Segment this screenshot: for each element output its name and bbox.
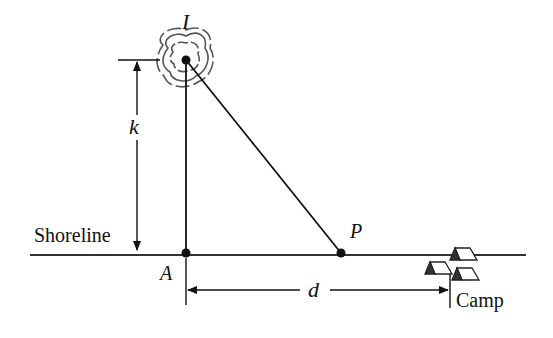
segment-ip — [186, 60, 341, 253]
label-k: k — [129, 114, 140, 139]
diagram-canvas: I k Shoreline A P d Camp — [0, 0, 553, 338]
point-p-dot — [337, 249, 346, 258]
label-d: d — [308, 277, 320, 302]
camp-tents-icon — [425, 248, 479, 280]
label-point-p: P — [349, 220, 362, 242]
label-point-a: A — [158, 262, 173, 284]
label-shoreline: Shoreline — [34, 224, 111, 246]
label-island-i: I — [181, 9, 191, 34]
label-camp: Camp — [456, 289, 504, 312]
point-i-dot — [182, 56, 191, 65]
point-a-dot — [182, 249, 191, 258]
